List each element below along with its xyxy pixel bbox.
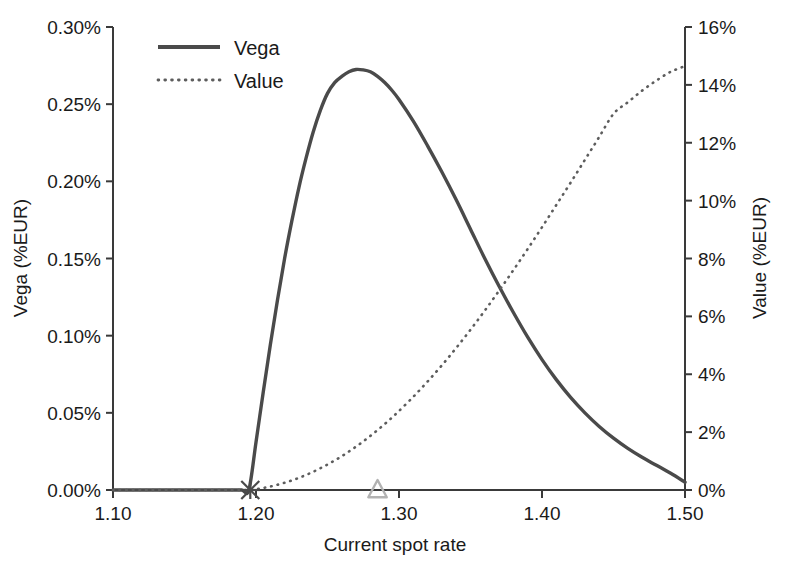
x-tick-label: 1.30 [381, 503, 418, 524]
y-tick-label-right: 10% [698, 191, 736, 212]
legend-label-vega: Vega [234, 37, 280, 59]
y-tick-label-left: 0.30% [47, 17, 101, 38]
y-axis-title-left: Vega (%EUR) [10, 199, 31, 317]
y-tick-label-left: 0.25% [47, 94, 101, 115]
y-tick-label-right: 14% [698, 75, 736, 96]
spot-marker [368, 480, 386, 497]
x-tick-label: 1.20 [238, 503, 275, 524]
legend-label-value: Value [234, 70, 284, 92]
y-tick-label-left: 0.00% [47, 480, 101, 501]
series-group [113, 66, 685, 493]
y-tick-label-left: 0.05% [47, 403, 101, 424]
axis-titles-group: Current spot rateVega (%EUR)Value (%EUR) [10, 197, 770, 555]
y-tick-label-left: 0.15% [47, 249, 101, 270]
chart-legend: VegaValue [158, 37, 284, 92]
chart-canvas: 0.00%0.05%0.10%0.15%0.20%0.25%0.30%0%2%4… [0, 0, 790, 575]
y-tick-label-right: 0% [698, 480, 726, 501]
y-tick-label-left: 0.20% [47, 171, 101, 192]
x-tick-label: 1.50 [667, 503, 704, 524]
strike-marker [240, 481, 260, 499]
series-line-vega [113, 69, 685, 493]
y-tick-label-right: 12% [698, 133, 736, 154]
y-tick-label-right: 16% [698, 17, 736, 38]
y-tick-label-right: 6% [698, 306, 726, 327]
y-tick-label-right: 4% [698, 364, 726, 385]
x-axis-title: Current spot rate [324, 534, 467, 555]
axes-group [113, 27, 685, 490]
x-tick-label: 1.40 [524, 503, 561, 524]
x-tick-label: 1.10 [95, 503, 132, 524]
y-axis-title-right: Value (%EUR) [749, 197, 770, 319]
y-tick-label-left: 0.10% [47, 326, 101, 347]
y-tick-label-right: 8% [698, 249, 726, 270]
chart-container: 0.00%0.05%0.10%0.15%0.20%0.25%0.30%0%2%4… [0, 0, 790, 575]
ticks-group: 0.00%0.05%0.10%0.15%0.20%0.25%0.30%0%2%4… [47, 17, 736, 524]
y-tick-label-right: 2% [698, 422, 726, 443]
